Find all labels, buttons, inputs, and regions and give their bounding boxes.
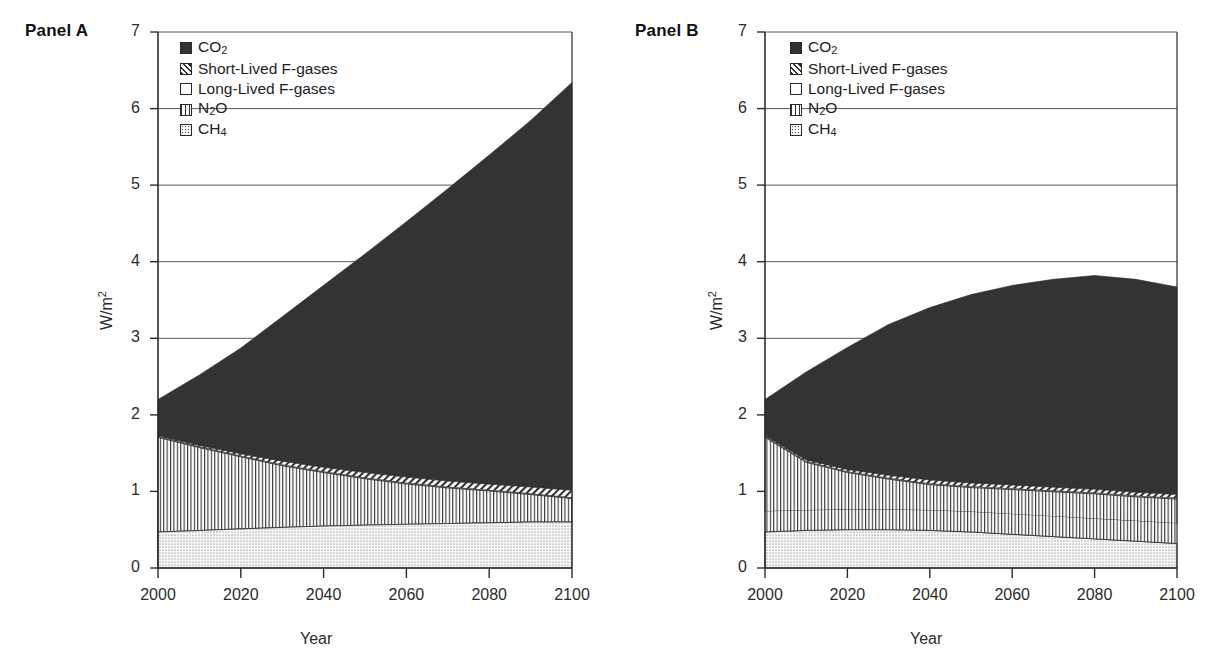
x-ticks [158, 568, 572, 578]
xtick-label-2100: 2100 [1137, 586, 1217, 604]
ytick-label-4: 4 [108, 252, 140, 270]
legend-label-ch4: CH4 [198, 119, 227, 143]
panel-b: Panel B [610, 0, 1220, 672]
legend-label-long-lived-f-gases: Long-Lived F-gases [198, 79, 335, 100]
y-ticks [757, 32, 765, 568]
xtick-label-2060: 2060 [972, 586, 1052, 604]
y-axis-label-exponent: 2 [706, 291, 718, 297]
y-axis-label-text: W/m [98, 297, 115, 330]
legend-swatch-long-lived-f-gases-icon [790, 83, 802, 95]
legend-item-short-lived-f-gases: Short-Lived F-gases [180, 59, 338, 80]
ytick-label-0: 0 [715, 558, 747, 576]
legend-item-n2o: N2O [790, 100, 948, 121]
ytick-label-1: 1 [108, 481, 140, 499]
legend-item-n2o: N2O [180, 100, 338, 121]
ytick-label-1: 1 [715, 481, 747, 499]
panel-a: Panel A [0, 0, 610, 672]
legend-swatch-short-lived-f-gases-icon [180, 63, 192, 75]
legend-label-short-lived-f-gases: Short-Lived F-gases [808, 59, 948, 80]
legend-item-short-lived-f-gases: Short-Lived F-gases [790, 59, 948, 80]
xtick-label-2080: 2080 [1055, 586, 1135, 604]
legend-label-long-lived-f-gases: Long-Lived F-gases [808, 79, 945, 100]
ytick-label-7: 7 [108, 22, 140, 40]
legend-label-short-lived-f-gases: Short-Lived F-gases [198, 59, 338, 80]
xtick-label-2060: 2060 [366, 586, 446, 604]
xtick-label-2100: 2100 [532, 586, 612, 604]
y-axis-label-exponent: 2 [96, 291, 108, 297]
ytick-label-5: 5 [108, 175, 140, 193]
legend-item-ch4: CH4 [790, 120, 948, 141]
legend-item-ch4: CH4 [180, 120, 338, 141]
legend-panel-b: CO2 Short-Lived F-gases Long-Lived F-gas… [790, 38, 948, 141]
legend-swatch-n2o-icon [790, 104, 802, 116]
xtick-label-2020: 2020 [807, 586, 887, 604]
legend-label-co2: CO2 [808, 37, 837, 61]
ytick-label-0: 0 [108, 558, 140, 576]
ytick-label-6: 6 [108, 99, 140, 117]
ytick-label-5: 5 [715, 175, 747, 193]
ytick-label-3: 3 [715, 328, 747, 346]
ytick-label-4: 4 [715, 252, 747, 270]
y-ticks [150, 32, 158, 568]
y-axis-label: W/m2 [96, 291, 116, 330]
ytick-label-6: 6 [715, 99, 747, 117]
xtick-label-2000: 2000 [725, 586, 805, 604]
legend-swatch-ch4-icon [790, 124, 802, 136]
ytick-label-2: 2 [108, 405, 140, 423]
legend-label-ch4: CH4 [808, 119, 837, 143]
ytick-label-3: 3 [108, 328, 140, 346]
legend-swatch-short-lived-f-gases-icon [790, 63, 802, 75]
y-axis-label-text: W/m [708, 297, 725, 330]
x-ticks [765, 568, 1177, 578]
xtick-label-2040: 2040 [890, 586, 970, 604]
figure-root: Panel A [0, 0, 1220, 672]
legend-swatch-co2-icon [790, 42, 802, 54]
legend-item-long-lived-f-gases: Long-Lived F-gases [180, 79, 338, 100]
ytick-label-7: 7 [715, 22, 747, 40]
x-axis-label: Year [910, 630, 942, 648]
legend-label-co2: CO2 [198, 37, 227, 61]
legend-item-co2: CO2 [790, 38, 948, 59]
legend-swatch-co2-icon [180, 42, 192, 54]
legend-swatch-ch4-icon [180, 124, 192, 136]
y-axis-label: W/m2 [706, 291, 726, 330]
legend-swatch-n2o-icon [180, 104, 192, 116]
ytick-label-2: 2 [715, 405, 747, 423]
xtick-label-2040: 2040 [284, 586, 364, 604]
legend-panel-a: CO2 Short-Lived F-gases Long-Lived F-gas… [180, 38, 338, 141]
xtick-label-2080: 2080 [449, 586, 529, 604]
xtick-label-2000: 2000 [118, 586, 198, 604]
x-axis-label: Year [300, 630, 332, 648]
legend-item-co2: CO2 [180, 38, 338, 59]
legend-item-long-lived-f-gases: Long-Lived F-gases [790, 79, 948, 100]
legend-swatch-long-lived-f-gases-icon [180, 83, 192, 95]
xtick-label-2020: 2020 [201, 586, 281, 604]
